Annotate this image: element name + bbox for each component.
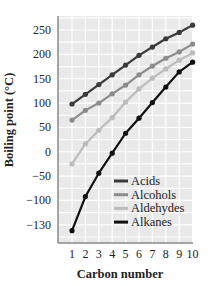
chart-canvas: 250200150100500−50−100−130 12345678910 C… (0, 0, 211, 286)
x-tick-label: 5 (123, 247, 129, 261)
data-point (177, 58, 182, 63)
data-point (190, 60, 195, 65)
x-axis-tick-labels: 12345678910 (69, 247, 199, 261)
data-point (163, 36, 168, 41)
data-point (110, 91, 115, 96)
data-point (136, 53, 141, 58)
data-point (163, 56, 168, 61)
y-axis-tick-labels: 250200150100500−50−100−130 (26, 23, 51, 232)
x-tick-label: 3 (96, 247, 102, 261)
data-point (69, 117, 74, 122)
data-point (150, 63, 155, 68)
data-point (83, 92, 88, 97)
y-tick-label: 150 (33, 72, 51, 86)
x-tick-label: 4 (109, 247, 115, 261)
x-axis-title: Carbon number (77, 267, 164, 281)
data-point (110, 72, 115, 77)
data-point (150, 76, 155, 81)
data-point (69, 101, 74, 106)
x-tick-label: 9 (176, 247, 182, 261)
data-point (123, 62, 128, 67)
data-point (177, 49, 182, 54)
data-point (110, 115, 115, 120)
y-tick-label: 100 (33, 96, 51, 110)
data-point (136, 86, 141, 91)
legend-label: Aldehydes (131, 201, 185, 215)
data-point (110, 151, 115, 156)
data-point (163, 84, 168, 89)
x-tick-label: 2 (82, 247, 88, 261)
data-point (177, 30, 182, 35)
data-point (190, 42, 195, 47)
x-tick-label: 10 (187, 247, 199, 261)
data-point (136, 116, 141, 121)
data-point (150, 100, 155, 105)
x-tick-label: 6 (136, 247, 142, 261)
data-point (96, 171, 101, 176)
data-point (177, 69, 182, 74)
data-point (96, 128, 101, 133)
y-tick-label: −50 (32, 169, 51, 183)
y-tick-label: 50 (39, 120, 51, 134)
data-point (83, 141, 88, 146)
data-point (136, 72, 141, 77)
legend-label: Alkanes (131, 215, 172, 229)
data-point (190, 23, 195, 28)
data-point (123, 99, 128, 104)
data-point (83, 108, 88, 113)
data-point (150, 44, 155, 49)
data-point (96, 82, 101, 87)
x-tick-label: 7 (149, 247, 155, 261)
data-point (123, 131, 128, 136)
y-tick-label: 250 (33, 23, 51, 37)
data-point (83, 194, 88, 199)
y-axis-title: Boiling point (°C) (2, 73, 16, 168)
data-point (190, 50, 195, 55)
y-tick-label: −130 (26, 218, 51, 232)
data-point (69, 161, 74, 166)
data-point (96, 100, 101, 105)
y-tick-label: −100 (26, 193, 51, 207)
data-point (123, 82, 128, 87)
y-tick-label: 0 (45, 145, 51, 159)
legend-label: Alcohols (131, 188, 176, 202)
boiling-point-chart: 250200150100500−50−100−130 12345678910 C… (0, 0, 211, 286)
data-point (69, 228, 74, 233)
data-point (163, 66, 168, 71)
legend-label: Acids (131, 174, 160, 188)
y-tick-label: 200 (33, 47, 51, 61)
x-tick-label: 8 (163, 247, 169, 261)
x-tick-label: 1 (69, 247, 75, 261)
